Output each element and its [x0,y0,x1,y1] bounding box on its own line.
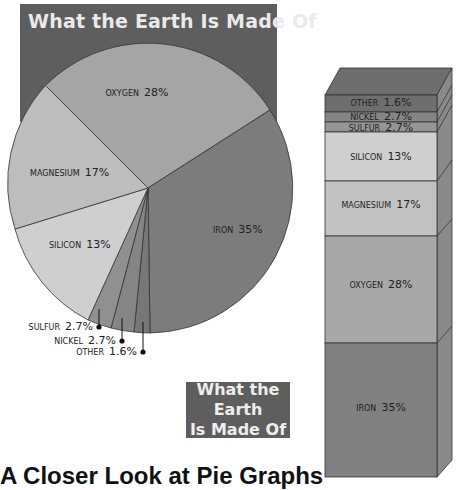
column-side-face [437,68,452,477]
leader-dot-sulfur [96,324,101,329]
column-chart-title: What the Earth Is Made Of [186,382,290,438]
leader-dot-nickel [119,338,124,343]
leader-dot-other [140,349,145,354]
section-heading: A Closer Look at Pie Graphs [0,462,323,490]
column-title-line2: Is Made Of [186,420,290,440]
column-title-line1: What the Earth [186,380,290,420]
column-top-face [325,68,452,95]
